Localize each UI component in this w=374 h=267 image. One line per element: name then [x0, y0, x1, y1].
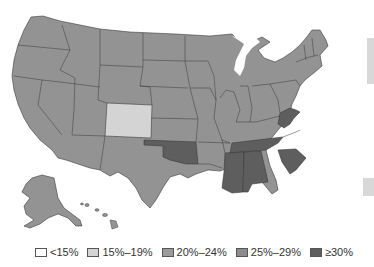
state-colorado: [105, 103, 152, 138]
map-legend: <15% 15%–19% 20%–24% 25%–29% ≥30%: [35, 244, 362, 260]
legend-label: 15%–19%: [102, 246, 152, 258]
state-hawaii: [81, 203, 119, 229]
legend-swatch: [310, 248, 322, 257]
state-alaska: [22, 175, 82, 228]
legend-swatch: [162, 248, 174, 257]
legend-item-lt15: <15%: [35, 246, 78, 258]
next-page-arrow[interactable]: [363, 178, 374, 196]
legend-swatch: [35, 248, 47, 257]
side-panel-edge: [367, 38, 374, 84]
state-south-carolina: [278, 149, 306, 174]
legend-item-25-29: 25%–29%: [236, 246, 301, 258]
legend-swatch: [236, 248, 248, 257]
legend-swatch: [87, 248, 99, 257]
us-choropleth-map: [0, 0, 374, 240]
legend-label: 20%–24%: [177, 246, 227, 258]
legend-label: <15%: [50, 246, 78, 258]
legend-label: ≥30%: [325, 246, 353, 258]
legend-item-20-24: 20%–24%: [162, 246, 227, 258]
legend-item-15-19: 15%–19%: [87, 246, 152, 258]
legend-label: 25%–29%: [251, 246, 301, 258]
state-mississippi: [222, 152, 244, 193]
legend-item-gte30: ≥30%: [310, 246, 353, 258]
state-contiguous-us: [12, 16, 328, 208]
